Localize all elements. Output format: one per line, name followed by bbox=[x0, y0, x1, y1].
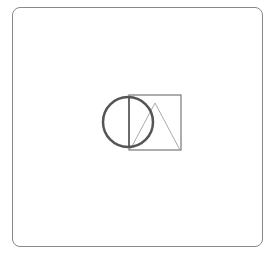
diagram bbox=[0, 0, 271, 257]
triangle-shape bbox=[130, 103, 180, 150]
circle-shape bbox=[103, 97, 153, 147]
